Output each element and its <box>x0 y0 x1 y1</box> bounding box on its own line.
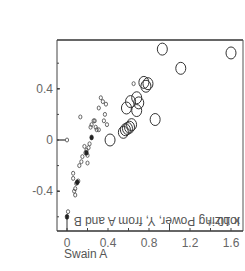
data-point <box>87 146 90 150</box>
data-point <box>86 161 89 165</box>
x-axis-label: Swain A <box>64 247 107 261</box>
data-point <box>65 214 69 219</box>
data-point <box>78 164 81 168</box>
svg-text:0: 0 <box>46 133 53 147</box>
data-point <box>88 142 91 146</box>
data-point <box>97 128 100 132</box>
data-point <box>72 176 75 180</box>
data-points <box>65 43 236 219</box>
data-point <box>83 144 86 148</box>
svg-text:1.2: 1.2 <box>182 236 199 250</box>
svg-text:-0.4: -0.4 <box>32 184 53 198</box>
data-point <box>105 134 115 146</box>
data-point <box>80 160 83 164</box>
data-point <box>66 210 69 214</box>
data-point <box>132 105 142 117</box>
data-point <box>74 193 77 197</box>
data-point <box>79 115 82 119</box>
plot-frame <box>57 40 243 231</box>
data-point <box>105 123 108 127</box>
y-axis-multiplier: x 10⁻¹ <box>207 214 240 228</box>
svg-text:0.8: 0.8 <box>141 236 158 250</box>
data-point <box>157 43 167 55</box>
data-point <box>81 155 84 159</box>
data-point <box>101 100 104 104</box>
data-point <box>90 135 94 140</box>
data-point <box>102 119 105 123</box>
data-point <box>104 102 107 106</box>
data-point <box>75 180 79 185</box>
data-point <box>150 114 160 126</box>
data-point <box>132 82 135 86</box>
svg-text:1.6: 1.6 <box>223 236 240 250</box>
data-point <box>176 62 186 74</box>
svg-text:0.4: 0.4 <box>36 82 53 96</box>
data-point <box>99 96 102 100</box>
y-axis-label: Ionizing Power, Y, from A and B x 10⁻¹ <box>4 0 24 271</box>
data-point <box>85 150 89 155</box>
data-point <box>226 47 236 59</box>
data-point <box>141 80 151 92</box>
scatter-plot: 00.40.81.21.6-0.400.4 <box>0 0 245 271</box>
data-point <box>103 112 106 116</box>
data-point <box>97 106 100 110</box>
data-point <box>72 171 75 175</box>
data-point <box>65 138 68 142</box>
